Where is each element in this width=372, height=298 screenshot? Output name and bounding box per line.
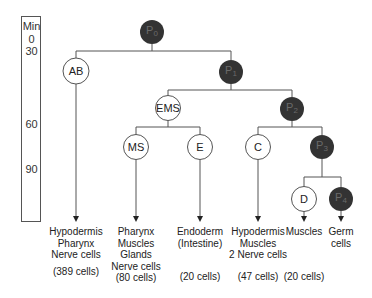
- time-tick-0: 0: [21, 33, 42, 45]
- label-p2: P2: [286, 101, 298, 117]
- fate-ab: Hypodermis Pharynx Nerve cells: [49, 226, 102, 261]
- label-p0: P0: [146, 24, 158, 40]
- fate-d: Muscles: [286, 226, 323, 238]
- label-e: E: [196, 141, 203, 153]
- time-tick-30: 30: [21, 45, 42, 57]
- label-ems: EMS: [156, 102, 180, 114]
- arrow-icon: [255, 216, 261, 222]
- label-p4: P4: [335, 191, 347, 207]
- arrow-icon: [197, 216, 203, 222]
- label-p3: P3: [316, 139, 328, 155]
- count-c: (47 cells): [238, 271, 279, 283]
- arrow-icon: [73, 216, 79, 222]
- fate-e: Endoderm (Intestine): [177, 226, 223, 249]
- count-e: (20 cells): [180, 271, 221, 283]
- count-d: (20 cells): [284, 271, 325, 283]
- arrow-icon: [133, 216, 139, 222]
- label-c: C: [254, 141, 262, 153]
- count-ab: (389 cells): [53, 266, 99, 278]
- arrow-icon: [301, 216, 307, 222]
- fate-c: Hypodermis Muscles 2 Nerve cells: [229, 226, 287, 261]
- fate-p4: Germ cells: [329, 226, 354, 249]
- label-d: D: [300, 193, 308, 205]
- cells: [63, 20, 353, 212]
- fate-ms: Pharynx Muscles Glands Nerve cells: [111, 226, 160, 272]
- time-tick-90: 90: [21, 163, 42, 175]
- time-unit-label: Min: [21, 20, 42, 32]
- arrowheads: [73, 216, 344, 222]
- label-ab: AB: [69, 65, 84, 77]
- label-ms: MS: [128, 141, 145, 153]
- label-p1: P1: [225, 64, 237, 80]
- time-tick-60: 60: [21, 118, 42, 130]
- count-ms: (80 cells): [116, 272, 157, 284]
- arrow-icon: [338, 216, 344, 222]
